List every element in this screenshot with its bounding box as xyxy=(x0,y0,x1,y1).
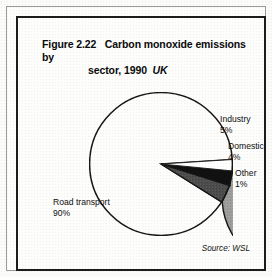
pie-label-domestic: Industry 5% xyxy=(220,114,251,135)
figure-outer-frame: Figure 2.22 Carbon monoxide emissions by… xyxy=(6,6,266,271)
pie-label-industry: Domestic 4% xyxy=(228,141,264,162)
figure-region: UK xyxy=(153,64,168,76)
pie-label-road-transport: Road transport 90% xyxy=(53,197,115,218)
pie-label-industry-name: Domestic xyxy=(228,141,264,152)
pie-label-industry-value: 4% xyxy=(228,152,264,163)
pie-label-other-value: 1% xyxy=(235,179,257,190)
pie-label-domestic-value: 5% xyxy=(220,125,251,136)
figure-page: Figure 2.22 Carbon monoxide emissions by… xyxy=(0,0,272,277)
figure-title-line2: sector, 1990 xyxy=(88,64,147,76)
figure-inner-frame: Figure 2.22 Carbon monoxide emissions by… xyxy=(16,16,266,271)
source-note: Source: WSL xyxy=(202,244,250,253)
pie-label-other: Other 1% xyxy=(235,168,257,189)
pie-label-road-transport-name: Road transport xyxy=(53,197,115,208)
pie-label-other-name: Other xyxy=(235,168,257,179)
pie-label-road-transport-value: 90% xyxy=(53,208,115,219)
figure-number: Figure 2.22 xyxy=(42,38,96,50)
figure-title: Figure 2.22 Carbon monoxide emissions by… xyxy=(42,38,260,77)
pie-label-domestic-name: Industry xyxy=(220,114,251,125)
